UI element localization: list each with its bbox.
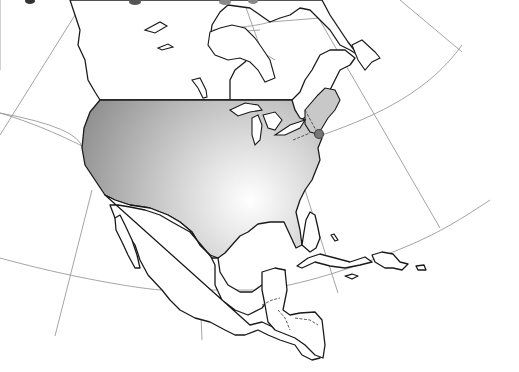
jamaica [345,274,358,279]
hispaniola [372,252,408,270]
north-america-map [0,0,519,372]
location-marker[interactable] [315,130,324,139]
puerto-rico [416,265,426,270]
newfoundland [352,40,380,70]
bahamas [331,234,338,241]
cuba [297,254,372,268]
florida [302,212,320,252]
